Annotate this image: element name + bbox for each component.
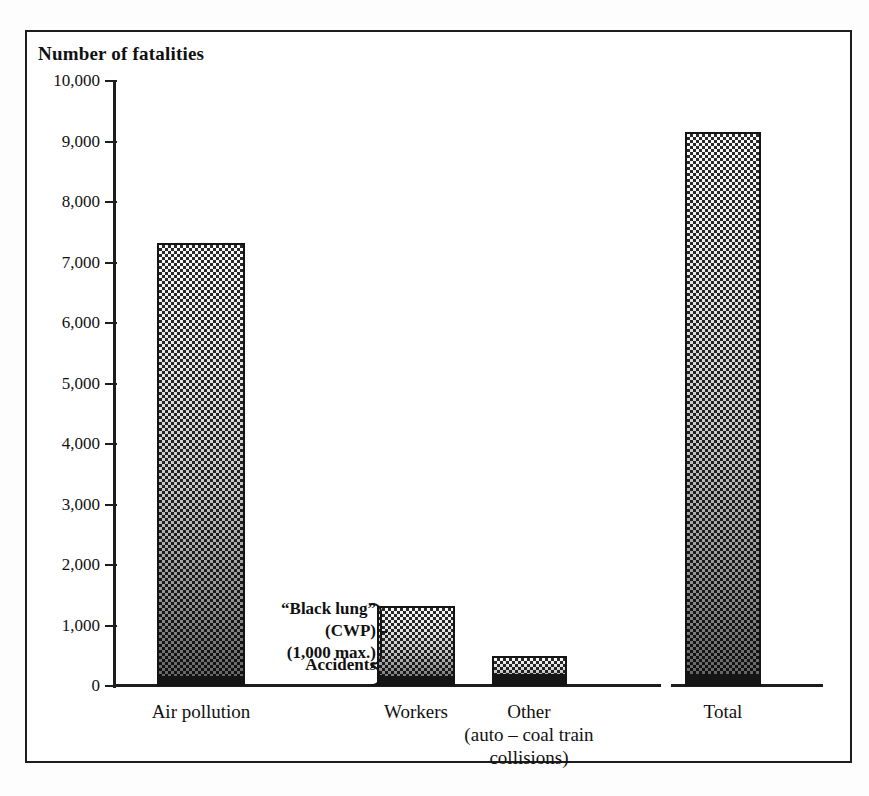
plot-area: 10,0009,0008,0007,0006,0005,0004,0003,00… — [0, 0, 869, 796]
bar-workers-accident-segment — [377, 676, 455, 686]
brace-accidents-tip-icon — [378, 675, 384, 677]
category-label-air-pollution-line1: Air pollution — [152, 700, 251, 723]
annotation-accidents: Accidents — [230, 655, 376, 675]
category-label-total-line1: Total — [704, 700, 743, 723]
y-axis-tick-mark — [105, 625, 117, 627]
y-axis-tick-label: 7,000 — [14, 253, 100, 273]
brace-black-lung-tip-icon — [380, 631, 387, 633]
chart-page: Number of fatalities 10,0009,0008,0007,0… — [0, 0, 869, 796]
y-axis-tick-mark — [105, 80, 117, 82]
y-axis-tick-label: 2,000 — [14, 555, 100, 575]
y-axis-tick-mark — [105, 504, 117, 506]
y-axis-tick-label: 5,000 — [14, 374, 100, 394]
category-label-workers: Workers — [384, 700, 448, 723]
y-axis-line — [113, 81, 116, 688]
category-label-workers-line1: Workers — [384, 700, 448, 723]
y-axis-tick-label: 9,000 — [14, 132, 100, 152]
y-axis-tick-mark — [105, 383, 117, 385]
y-axis-tick-mark — [105, 141, 117, 143]
y-axis-tick-label: 10,000 — [14, 71, 100, 91]
category-label-other-line3: collisions) — [464, 746, 593, 769]
bar-total-accident-segment — [685, 674, 761, 686]
y-axis-tick-label: 3,000 — [14, 495, 100, 515]
category-label-air-pollution: Air pollution — [152, 700, 251, 723]
bar-total — [685, 132, 761, 686]
bar-other-accident-segment — [492, 674, 567, 686]
bar-workers — [377, 606, 455, 686]
y-axis-tick-mark — [105, 564, 117, 566]
category-label-other-line1: Other — [464, 700, 593, 723]
y-axis-tick-mark — [105, 685, 117, 687]
annotation-black-lung-line2: (CWP) — [236, 620, 376, 642]
y-axis-tick-label: 8,000 — [14, 192, 100, 212]
category-label-other-line2: (auto – coal train — [464, 723, 593, 746]
annotation-black-lung-line1: “Black lung” — [236, 598, 376, 620]
y-axis-tick-label: 4,000 — [14, 434, 100, 454]
y-axis-tick-mark — [105, 322, 117, 324]
y-axis-tick-label: 0 — [14, 676, 100, 696]
y-axis-tick-mark — [105, 443, 117, 445]
y-axis-tick-mark — [105, 262, 117, 264]
category-label-total: Total — [704, 700, 743, 723]
y-axis-tick-label: 6,000 — [14, 313, 100, 333]
category-label-other: Other(auto – coal traincollisions) — [464, 700, 593, 769]
bar-air-pollution — [157, 243, 245, 686]
y-axis-tick-mark — [105, 201, 117, 203]
y-axis-tick-label: 1,000 — [14, 616, 100, 636]
bar-air-pollution-accident-segment — [157, 676, 245, 686]
